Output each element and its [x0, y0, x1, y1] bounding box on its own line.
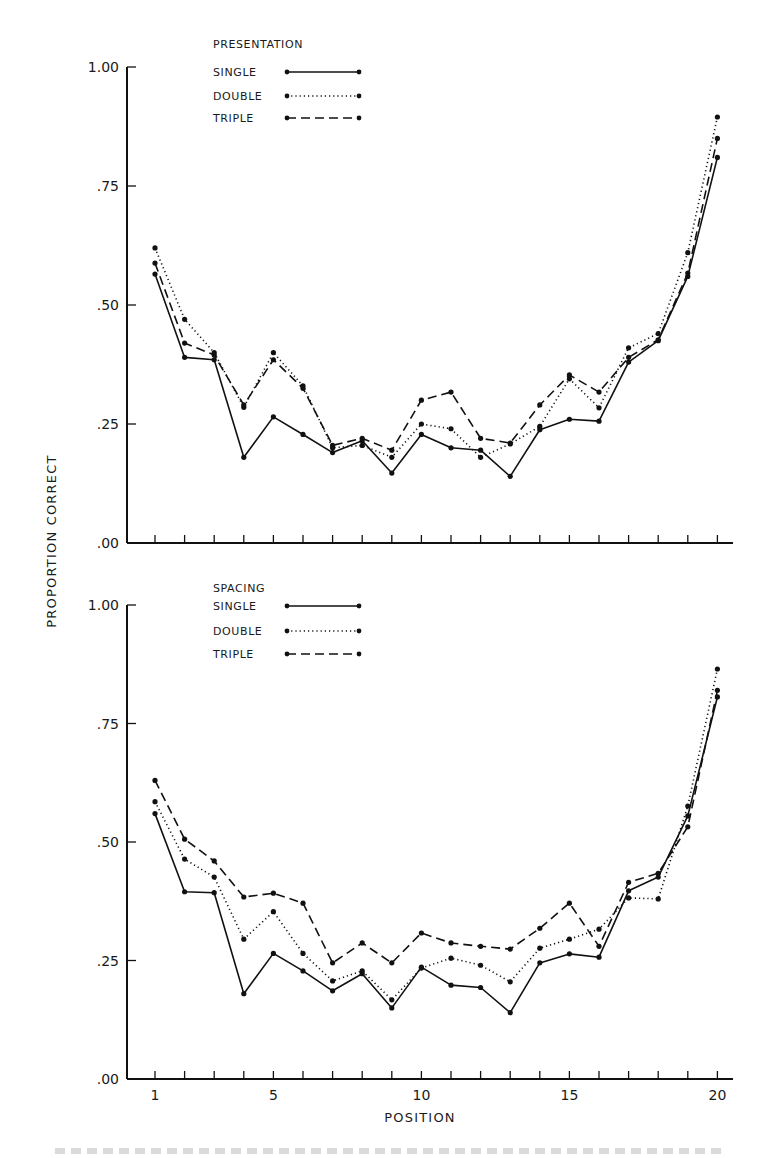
data-point [567, 372, 572, 377]
data-point [419, 398, 424, 403]
legend-label-single: SINGLE [213, 66, 257, 79]
data-point [537, 424, 542, 429]
legend-marker [285, 94, 290, 99]
data-point [182, 317, 187, 322]
data-point [596, 405, 601, 410]
data-point [715, 155, 720, 160]
series-triple-line [155, 138, 717, 450]
data-point [448, 956, 453, 961]
y-axis-title: PROPORTION CORRECT [44, 454, 59, 627]
data-point [656, 871, 661, 876]
data-point [685, 803, 690, 808]
data-point [715, 114, 720, 119]
panel-spacing: .00.25.50.751.00 SPACING SINGLE DOUBLE T… [88, 582, 733, 1087]
legend-marker [285, 116, 290, 121]
data-point [508, 474, 513, 479]
data-point [508, 440, 513, 445]
data-point [241, 937, 246, 942]
data-point [537, 926, 542, 931]
data-point [567, 951, 572, 956]
data-point [419, 432, 424, 437]
data-point [448, 390, 453, 395]
y-tick-label: 1.00 [88, 59, 119, 75]
data-point [537, 402, 542, 407]
data-point [626, 345, 631, 350]
legend-title: SPACING [213, 582, 265, 595]
data-point [626, 888, 631, 893]
data-point [389, 455, 394, 460]
y-tick-label: .50 [97, 297, 119, 313]
data-point [478, 436, 483, 441]
data-point [389, 1005, 394, 1010]
top-axes: .00.25.50.751.00 [88, 59, 733, 551]
bottom-series [152, 666, 720, 1015]
data-point [241, 455, 246, 460]
y-tick-label: .50 [97, 834, 119, 850]
data-point [715, 666, 720, 671]
legend-marker [357, 604, 362, 609]
data-point [241, 991, 246, 996]
data-point [152, 811, 157, 816]
data-point [419, 421, 424, 426]
data-point [656, 896, 661, 901]
legend-label-double: DOUBLE [213, 90, 262, 103]
data-point [508, 947, 513, 952]
data-point [685, 824, 690, 829]
data-point [271, 891, 276, 896]
data-point [626, 880, 631, 885]
legend-marker [285, 652, 290, 657]
x-tick-label: 20 [708, 1087, 726, 1103]
data-point [508, 979, 513, 984]
data-point [478, 963, 483, 968]
line-chart-figure: PROPORTION CORRECT .00.25.50.751.00 PRES… [0, 0, 769, 1158]
data-point [271, 414, 276, 419]
data-point [300, 951, 305, 956]
data-point [241, 894, 246, 899]
data-point [152, 799, 157, 804]
data-point [212, 890, 217, 895]
data-point [685, 250, 690, 255]
legend-spacing: SPACING SINGLE DOUBLE TRIPLE [212, 582, 361, 661]
data-point [182, 837, 187, 842]
data-point [715, 136, 720, 141]
data-point [152, 271, 157, 276]
data-point [685, 271, 690, 276]
data-point [537, 960, 542, 965]
y-tick-label: 1.00 [88, 597, 119, 613]
data-point [300, 432, 305, 437]
data-point [271, 951, 276, 956]
data-point [567, 937, 572, 942]
legend-presentation: PRESENTATION SINGLE DOUBLE TRIPLE [212, 38, 361, 125]
top-series [152, 114, 720, 479]
data-point [626, 895, 631, 900]
data-point [389, 997, 394, 1002]
panel-presentation: .00.25.50.751.00 PRESENTATION SINGLE DOU… [88, 38, 733, 551]
data-point [478, 455, 483, 460]
data-point [241, 402, 246, 407]
data-point [182, 889, 187, 894]
x-axis-title: POSITION [384, 1110, 456, 1125]
series-single-line [155, 157, 717, 476]
x-tick-label: 15 [560, 1087, 578, 1103]
legend-label-single: SINGLE [213, 600, 257, 613]
legend-marker [357, 94, 362, 99]
data-point [448, 983, 453, 988]
legend-label-triple: TRIPLE [212, 112, 254, 125]
data-point [567, 417, 572, 422]
data-point [182, 856, 187, 861]
cropped-caption-line [55, 1148, 725, 1154]
data-point [330, 443, 335, 448]
x-axis-tick-labels: 15101520 [151, 1087, 727, 1103]
data-point [271, 357, 276, 362]
data-point [212, 858, 217, 863]
data-point [152, 245, 157, 250]
data-point [478, 985, 483, 990]
data-point [389, 448, 394, 453]
series-double-line [155, 117, 717, 457]
data-point [330, 988, 335, 993]
data-point [271, 909, 276, 914]
data-point [152, 261, 157, 266]
data-point [300, 386, 305, 391]
legend-title: PRESENTATION [213, 38, 303, 51]
legend-marker [357, 652, 362, 657]
